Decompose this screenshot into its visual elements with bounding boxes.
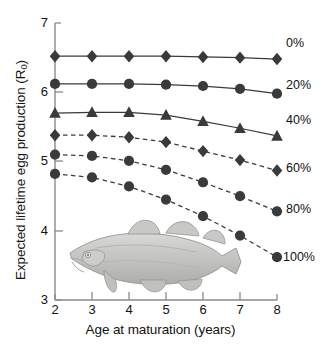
legend-label-0: 0% (286, 36, 304, 50)
chart-figure: 7 6 5 4 3 2 3 4 5 6 7 8 Age at maturatio… (0, 0, 321, 344)
data-point (272, 252, 282, 262)
data-point (124, 181, 134, 191)
data-point (87, 129, 98, 141)
data-point (86, 106, 98, 117)
y-axis-title: Expected lifetime egg production (R0) (13, 60, 29, 280)
y-axis-title-tail: ) (13, 60, 28, 64)
data-point (50, 169, 60, 179)
x-axis-title: Age at maturation (years) (0, 322, 321, 337)
chart-series-40pct (49, 106, 283, 140)
data-point (50, 129, 61, 141)
data-point (124, 50, 135, 62)
data-point (235, 84, 245, 94)
xtick-label: 5 (155, 303, 177, 317)
data-point (161, 136, 172, 148)
data-point (124, 131, 135, 143)
legend-label-60: 60% (286, 161, 311, 175)
xtick-label: 2 (44, 303, 66, 317)
data-point (198, 145, 209, 157)
xtick-label: 4 (118, 303, 140, 317)
data-point (272, 164, 283, 176)
data-point (124, 156, 134, 166)
data-point (198, 51, 209, 63)
data-point (272, 53, 283, 65)
data-point (161, 165, 171, 175)
data-point (235, 230, 245, 240)
legend-label-40: 40% (286, 113, 311, 127)
data-point (50, 50, 61, 62)
data-point (161, 80, 171, 90)
legend-label-80: 80% (286, 202, 311, 216)
xtick-label: 6 (192, 303, 214, 317)
data-point (50, 149, 60, 159)
chart-series-layer (49, 50, 283, 262)
data-point (198, 81, 208, 91)
xtick-label: 7 (229, 303, 251, 317)
y-axis-title-wrapper: Expected lifetime egg production (R0) (11, 20, 31, 320)
data-point (161, 50, 172, 62)
chart-series-20pct (50, 79, 282, 99)
xtick-label: 3 (81, 303, 103, 317)
data-point (235, 51, 246, 63)
chart-plot-area (0, 0, 321, 344)
data-point (50, 79, 60, 89)
xtick-label: 8 (266, 303, 288, 317)
data-point (161, 194, 171, 204)
y-axis-title-base: Expected lifetime egg production (R (13, 70, 28, 280)
cod-fish-illustration (70, 220, 241, 292)
chart-series-80pct (50, 149, 282, 216)
data-point (87, 172, 97, 182)
data-point (198, 211, 208, 221)
data-point (272, 89, 282, 99)
data-point (235, 191, 245, 201)
legend-label-100: 100% (283, 250, 315, 264)
data-point (87, 79, 97, 89)
legend-label-20: 20% (286, 78, 311, 92)
data-point (235, 154, 246, 166)
data-point (87, 151, 97, 161)
data-point (124, 79, 134, 89)
data-point (123, 106, 135, 117)
data-point (272, 206, 282, 216)
y-axis-title-subscript: 0 (18, 64, 29, 69)
data-point (198, 177, 208, 187)
data-point (87, 50, 98, 62)
chart-series-0pct (50, 50, 283, 65)
